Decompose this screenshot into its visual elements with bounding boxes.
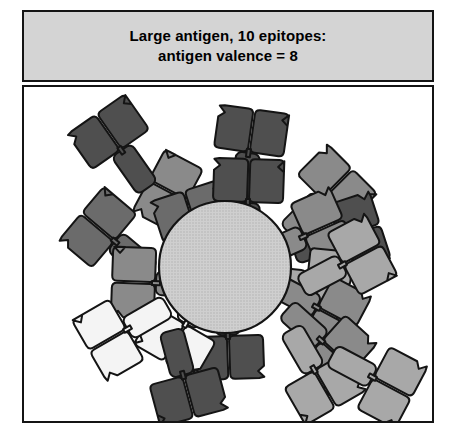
diagram-panel: [22, 85, 434, 423]
page-title: Large antigen, 10 epitopes: antigen vale…: [130, 26, 327, 66]
antigen-valence-figure: Large antigen, 10 epitopes: antigen vale…: [0, 0, 453, 441]
antigen-sphere: [159, 201, 291, 333]
antibody-antigen-scene: [24, 87, 432, 421]
figure-title-panel: Large antigen, 10 epitopes: antigen vale…: [22, 10, 434, 82]
